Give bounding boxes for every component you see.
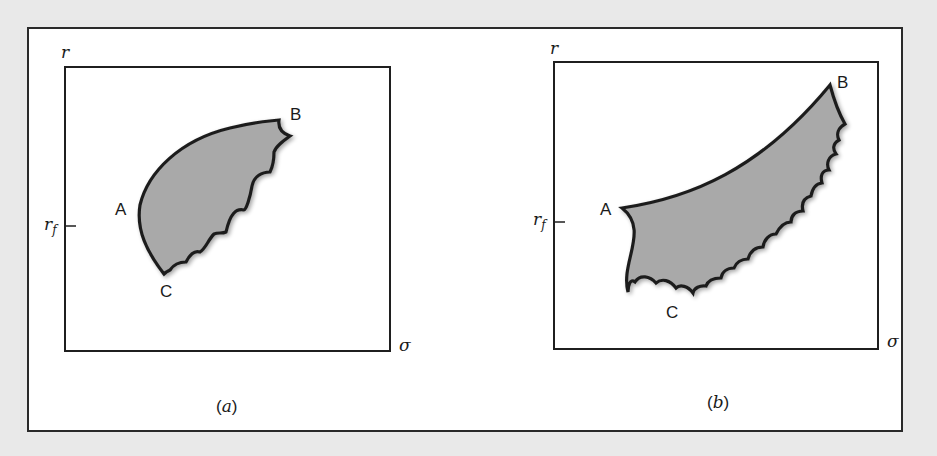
panel-a: A B C r σ rf (a) bbox=[44, 42, 411, 416]
point-label-A-a: A bbox=[115, 200, 127, 219]
feasible-region-b-shape bbox=[622, 85, 845, 293]
y-axis-label-a: r bbox=[61, 42, 70, 62]
rf-label-b: rf bbox=[533, 209, 548, 232]
panel-b: A B C r σ rf (b) bbox=[533, 38, 899, 412]
y-axis-label-b: r bbox=[550, 38, 559, 58]
point-label-A-b: A bbox=[600, 200, 612, 219]
feasible-region-a bbox=[139, 120, 290, 274]
point-label-C-a: C bbox=[160, 282, 172, 301]
panel-caption-a: (a) bbox=[216, 396, 237, 416]
figure-canvas: A B C r σ rf (a) A B C r σ rf (b) bbox=[0, 0, 937, 456]
x-axis-label-b: σ bbox=[887, 331, 899, 351]
x-axis-label-a: σ bbox=[399, 335, 411, 355]
point-label-C-b: C bbox=[666, 303, 678, 322]
point-label-B-b: B bbox=[837, 73, 848, 92]
panel-caption-b: (b) bbox=[707, 392, 729, 412]
point-label-B-a: B bbox=[290, 105, 301, 124]
rf-label-a: rf bbox=[44, 214, 59, 237]
